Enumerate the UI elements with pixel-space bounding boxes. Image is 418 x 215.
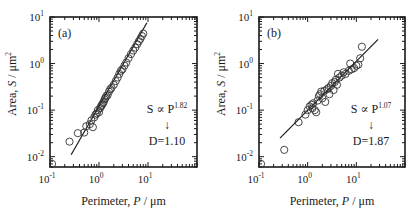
y-tick-label: 101	[29, 9, 44, 23]
chart-panel-b: 10-110010110110010-110-2Perimeter, P / μ…	[213, 9, 405, 208]
data-point	[281, 146, 288, 153]
x-tick-label: 101	[346, 171, 361, 185]
x-tick-label: 10-1	[247, 171, 264, 185]
y-tick-label: 100	[29, 56, 44, 70]
x-tick-label: 10-1	[38, 171, 55, 185]
y-axis-title: Area, S / μm2	[4, 52, 19, 116]
data-points	[257, 43, 365, 167]
power-law-relation: S ∝ P1.07	[351, 101, 392, 116]
fractal-dimension-value: D=1.87	[353, 134, 389, 148]
figure: 10-110010110110010-110-2Perimeter, P / μ…	[0, 0, 418, 215]
data-point	[358, 43, 365, 50]
y-tick-label: 101	[238, 9, 253, 23]
y-tick-label: 10-2	[27, 149, 44, 163]
y-tick-label: 10-2	[236, 149, 253, 163]
x-tick-label: 100	[297, 171, 312, 185]
x-axis-title: Perimeter, P / μm	[290, 194, 375, 208]
arrow-down-icon: ↓	[368, 118, 374, 132]
data-point	[66, 138, 73, 145]
x-tick-label: 101	[138, 171, 153, 185]
y-tick-label: 10-1	[27, 102, 44, 116]
data-points	[48, 30, 146, 167]
arrow-down-icon: ↓	[164, 118, 170, 132]
data-point	[313, 109, 320, 116]
panel-label: (b)	[267, 26, 281, 40]
power-law-relation: S ∝ P1.82	[147, 101, 188, 116]
fractal-dimension-value: D=1.10	[149, 134, 185, 148]
x-tick-label: 100	[89, 171, 104, 185]
chart-panel-a: 10-110010110110010-110-2Perimeter, P / μ…	[4, 9, 197, 208]
y-axis-title: Area, S / μm2	[213, 52, 228, 116]
y-tick-label: 10-1	[236, 102, 253, 116]
y-tick-label: 100	[238, 56, 253, 70]
panel-label: (a)	[58, 26, 71, 40]
data-point	[89, 124, 96, 131]
x-axis-title: Perimeter, P / μm	[81, 194, 166, 208]
